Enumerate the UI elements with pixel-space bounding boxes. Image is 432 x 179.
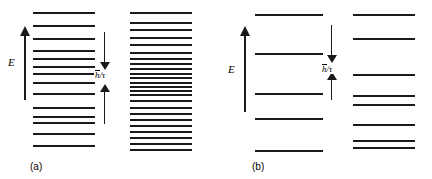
energy-level [130, 82, 192, 84]
arrow-shaft-lower-a [104, 90, 105, 124]
energy-level [33, 73, 95, 75]
energy-level [33, 58, 95, 60]
energy-level [33, 66, 95, 68]
energy-level-figure: E h/τ [0, 0, 432, 179]
energy-axis-label-a: E [8, 57, 15, 68]
energy-level [255, 93, 323, 95]
energy-level [130, 119, 192, 121]
energy-level [130, 125, 192, 127]
energy-level [33, 12, 95, 14]
energy-level [255, 53, 323, 55]
energy-level [33, 82, 95, 84]
arrow-shaft-lower-b [331, 78, 332, 100]
energy-level [33, 50, 95, 52]
energy-level [33, 116, 95, 118]
panel-b: E h/τ (b) [216, 0, 432, 179]
energy-level [130, 131, 192, 133]
panel-a: E h/τ [0, 0, 216, 179]
energy-level [130, 37, 192, 39]
energy-level [130, 90, 192, 92]
energy-level [130, 52, 192, 54]
panel-caption-a: (a) [30, 162, 42, 172]
energy-level [130, 86, 192, 88]
linewidth-label-tau-b: τ [329, 64, 332, 74]
energy-level [255, 118, 323, 120]
energy-level [353, 147, 415, 149]
energy-axis-shaft-b [244, 34, 246, 112]
arrow-shaft-upper-b [331, 25, 332, 57]
energy-level [130, 73, 192, 75]
energy-level [130, 100, 192, 102]
energy-level [33, 122, 95, 124]
panel-caption-b: (b) [252, 162, 264, 172]
energy-level [130, 12, 192, 14]
energy-level [353, 140, 415, 142]
energy-level [130, 113, 192, 115]
energy-level [33, 93, 95, 95]
energy-level [130, 94, 192, 96]
energy-level [353, 38, 415, 40]
energy-axis-shaft-a [24, 34, 26, 100]
linewidth-label-a: h/τ [94, 70, 106, 80]
energy-level [353, 14, 415, 16]
energy-level [130, 137, 192, 139]
energy-level [353, 124, 415, 126]
energy-level [255, 150, 323, 152]
energy-level [255, 14, 323, 16]
energy-level [353, 104, 415, 106]
energy-level [353, 95, 415, 97]
linewidth-label-tau-a: τ [102, 70, 105, 80]
energy-level [33, 145, 95, 147]
energy-level [130, 68, 192, 70]
energy-level [33, 25, 95, 27]
energy-level [130, 44, 192, 46]
energy-level [33, 133, 95, 135]
linewidth-label-b: h/τ [321, 64, 333, 74]
arrow-shaft-upper-a [104, 32, 105, 64]
energy-level [33, 107, 95, 109]
energy-level [130, 149, 192, 151]
energy-level [130, 63, 192, 65]
energy-axis-label-b: E [228, 64, 235, 75]
energy-level [130, 22, 192, 24]
energy-level [130, 77, 192, 79]
energy-level [130, 143, 192, 145]
energy-level [130, 29, 192, 31]
energy-level [33, 38, 95, 40]
energy-level [353, 74, 415, 76]
energy-level [130, 107, 192, 109]
energy-level [130, 58, 192, 60]
